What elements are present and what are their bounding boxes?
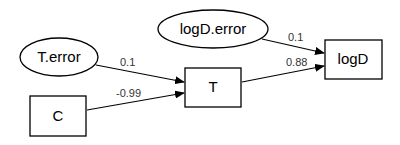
path-diagram: 0.1 -0.99 0.1 0.88 T.error C T logD.erro… bbox=[0, 0, 400, 145]
edge-label-terror-t: 0.1 bbox=[120, 56, 135, 68]
edge-line bbox=[242, 66, 324, 82]
node-label-logd-error: logD.error bbox=[180, 20, 247, 37]
edge-terror-to-t: 0.1 bbox=[96, 56, 184, 82]
edge-label-logderror-logd: 0.1 bbox=[288, 31, 303, 43]
node-t: T bbox=[185, 68, 241, 107]
node-label-c: C bbox=[53, 107, 64, 124]
edge-line bbox=[96, 65, 184, 82]
node-label-t: T bbox=[208, 78, 217, 95]
edge-label-c-t: -0.99 bbox=[116, 87, 141, 99]
node-c: C bbox=[30, 96, 86, 136]
edge-logderror-to-logd: 0.1 bbox=[262, 31, 324, 53]
edge-t-to-logd: 0.88 bbox=[242, 56, 324, 82]
node-t-error: T.error bbox=[20, 38, 98, 76]
node-label-t-error: T.error bbox=[37, 48, 80, 65]
node-logd-error: logD.error bbox=[158, 10, 268, 48]
edge-label-t-logd: 0.88 bbox=[286, 56, 307, 68]
node-logd: logD bbox=[325, 40, 382, 79]
node-label-logd: logD bbox=[338, 50, 369, 67]
edge-c-to-t: -0.99 bbox=[87, 87, 184, 110]
